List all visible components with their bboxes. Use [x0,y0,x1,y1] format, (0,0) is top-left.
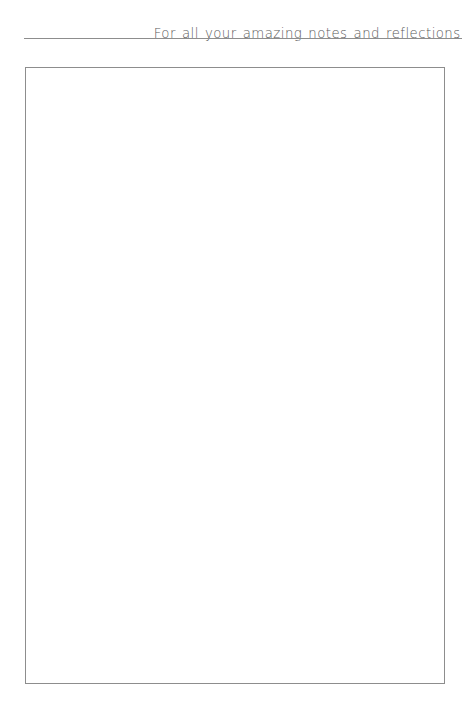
page-header: For all your amazing notes and reflectio… [24,12,462,40]
notes-box[interactable] [25,67,445,684]
header-divider [24,38,462,39]
notes-writing-area[interactable] [26,68,444,683]
notes-page: For all your amazing notes and reflectio… [0,0,469,706]
